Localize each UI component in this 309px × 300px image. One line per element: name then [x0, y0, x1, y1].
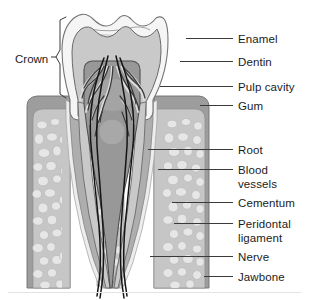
label-cementum-line1: Cementum: [238, 197, 295, 211]
label-blood-vessels-line1: Blood: [238, 164, 277, 178]
label-pulp-cavity-line1: Pulp cavity: [238, 81, 295, 95]
label-gum-line1: Gum: [238, 100, 263, 114]
label-dentin-line1: Dentin: [238, 56, 272, 70]
label-root-line1: Root: [238, 144, 263, 158]
label-crown: Crown: [15, 53, 48, 67]
label-enamel: Enamel: [238, 33, 278, 47]
label-blood-vessels: Bloodvessels: [238, 164, 277, 191]
label-dentin: Dentin: [238, 56, 272, 70]
label-jawbone: Jawbone: [238, 271, 285, 285]
label-periodontal-ligament: Peridontalligament: [238, 218, 291, 245]
label-cementum: Cementum: [238, 197, 295, 211]
label-periodontal-ligament-line1: Peridontal: [238, 218, 291, 232]
label-pulp-cavity: Pulp cavity: [238, 81, 295, 95]
label-nerve-line1: Nerve: [238, 251, 269, 265]
label-nerve: Nerve: [238, 251, 269, 265]
label-periodontal-ligament-line2: ligament: [238, 232, 291, 246]
label-blood-vessels-line2: vessels: [238, 178, 277, 192]
footer-divider: [8, 292, 301, 293]
label-root: Root: [238, 144, 263, 158]
label-enamel-line1: Enamel: [238, 33, 278, 47]
label-gum: Gum: [238, 100, 263, 114]
label-jawbone-line1: Jawbone: [238, 271, 285, 285]
tooth-anatomy-diagram: EnamelDentinPulp cavityGumRootBloodvesse…: [0, 0, 309, 300]
